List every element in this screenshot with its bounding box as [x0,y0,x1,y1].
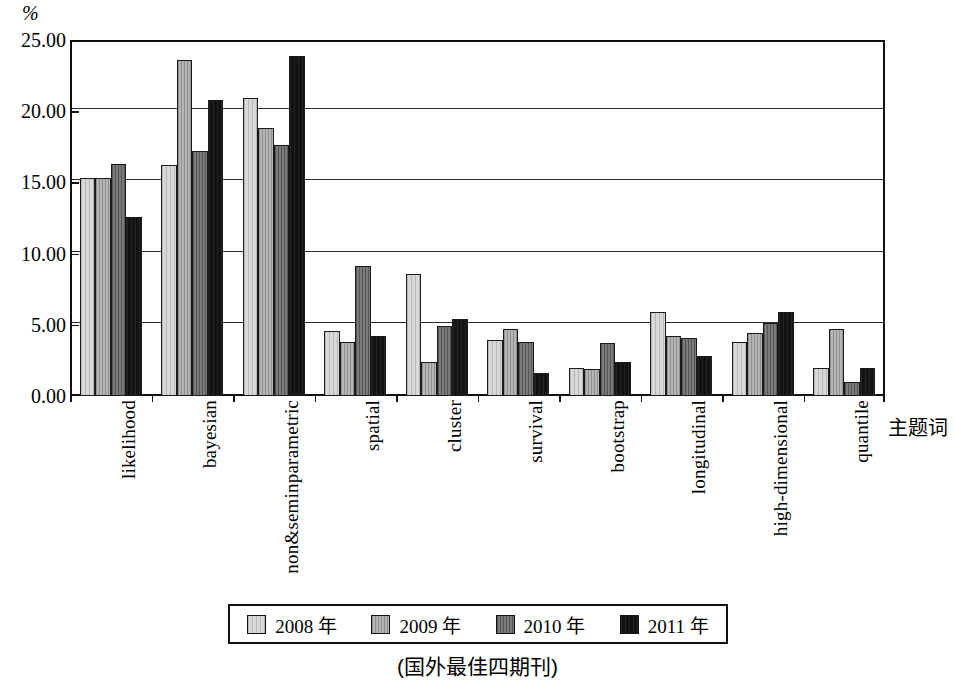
bar-group [80,40,142,396]
bar[interactable] [569,368,585,396]
bar[interactable] [844,382,860,396]
bar-chart-figure: % 0.005.0010.0015.0020.0025.00 likelihoo… [0,0,955,682]
legend-swatch-icon [496,615,515,634]
x-axis-category-label: likelihood [118,400,140,479]
legend-swatch-icon [247,615,266,634]
bar[interactable] [747,333,763,396]
x-axis-category-label: longitudinal [688,400,710,494]
bar[interactable] [487,340,503,396]
bar-group [406,40,468,396]
legend-item[interactable]: 2009 年 [371,611,461,638]
y-axis-tick-label: 25.00 [0,29,66,52]
bar[interactable] [243,98,259,396]
legend-swatch-icon [620,615,639,634]
bar[interactable] [813,368,829,396]
legend-item[interactable]: 2010 年 [496,611,586,638]
bar[interactable] [289,56,305,396]
figure-caption: (国外最佳四期刊) [0,650,955,680]
bar[interactable] [534,373,550,396]
bar-group [324,40,386,396]
x-axis-category-label: non&seminparametric [281,400,303,574]
bar[interactable] [763,323,779,396]
bar-group [732,40,794,396]
bar[interactable] [452,319,468,396]
bar[interactable] [95,178,111,396]
bar-group [650,40,712,396]
bar[interactable] [584,369,600,396]
legend-item[interactable]: 2011 年 [620,611,709,638]
legend-item[interactable]: 2008 年 [247,611,337,638]
y-axis-tick-label: 20.00 [0,100,66,123]
bar[interactable] [324,331,340,397]
bar[interactable] [778,312,794,396]
bar-group [161,40,223,396]
bar[interactable] [615,362,631,396]
y-axis-tick-labels: 0.005.0010.0015.0020.0025.00 [0,40,66,396]
x-axis-title: 主题词 [888,412,948,441]
bar-group [569,40,631,396]
bar[interactable] [732,342,748,396]
bar[interactable] [829,329,845,396]
legend-label: 2010 年 [524,611,586,638]
bar[interactable] [406,274,422,396]
bar[interactable] [258,128,274,396]
bar[interactable] [80,178,96,396]
x-axis-category-label: spatial [362,400,384,451]
bar[interactable] [650,312,666,396]
x-axis-category-label: survival [525,400,547,463]
y-axis-tick-label: 15.00 [0,171,66,194]
bar[interactable] [666,336,682,396]
x-axis-category-label: bayesian [199,400,221,468]
bar[interactable] [697,356,713,396]
bar[interactable] [371,336,387,396]
legend-swatch-icon [371,615,390,634]
bar[interactable] [177,60,193,396]
x-axis-category-labels: likelihoodbayesiannon&seminparametricspa… [70,400,885,580]
x-axis-category-label: quantile [851,400,873,463]
bar[interactable] [192,151,208,396]
bar[interactable] [600,343,616,396]
bar[interactable] [274,145,290,396]
legend-label: 2009 年 [399,611,461,638]
legend: 2008 年2009 年2010 年2011 年 [228,604,728,644]
bar[interactable] [437,326,453,396]
bar[interactable] [208,100,224,396]
bar-group [243,40,305,396]
bar-group [813,40,875,396]
bars-layer [70,40,885,396]
bar[interactable] [421,362,437,396]
bar[interactable] [355,266,371,396]
x-axis-category-label: bootstrap [607,400,629,473]
bar[interactable] [111,164,127,396]
bar[interactable] [340,342,356,396]
bar[interactable] [860,368,876,396]
bar[interactable] [681,338,697,396]
legend-label: 2011 年 [648,611,709,638]
y-axis-tick-label: 10.00 [0,242,66,265]
bar[interactable] [161,165,177,396]
y-axis-tick-label: 5.00 [0,313,66,336]
x-axis-category-label: cluster [444,400,466,452]
bar[interactable] [518,342,534,396]
x-axis-category-label: high-dimensional [770,400,792,536]
y-axis-unit-label: % [22,2,39,25]
bar[interactable] [503,329,519,396]
bar-group [487,40,549,396]
legend-label: 2008 年 [275,611,337,638]
bar[interactable] [126,217,142,396]
y-axis-tick-label: 0.00 [0,385,66,408]
